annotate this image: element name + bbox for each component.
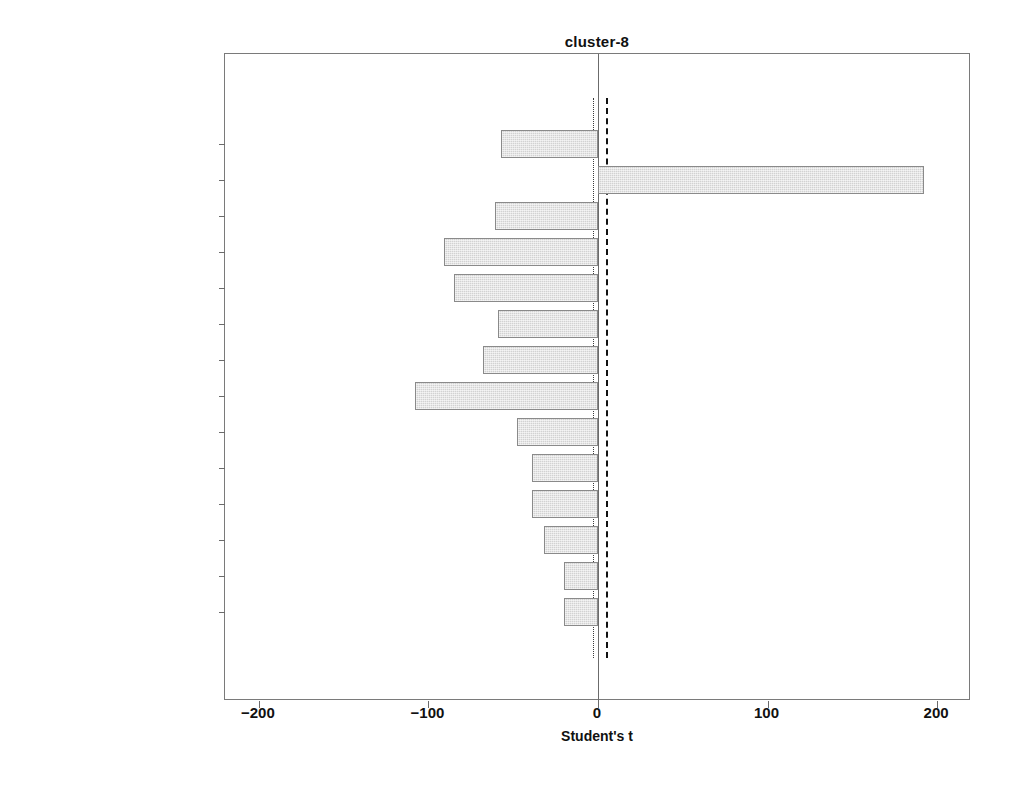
y-axis-tick bbox=[219, 540, 225, 541]
bar bbox=[532, 490, 598, 518]
y-axis-tick bbox=[219, 612, 225, 613]
x-axis-title: Student's t bbox=[224, 728, 970, 744]
y-axis-tick bbox=[219, 576, 225, 577]
bar bbox=[544, 526, 598, 554]
x-axis-tick-label: 200 bbox=[891, 704, 981, 721]
bar bbox=[598, 166, 924, 194]
y-axis-tick bbox=[219, 468, 225, 469]
bar bbox=[498, 310, 598, 338]
bar bbox=[564, 598, 598, 626]
chart-container: cluster-8 PRC ACCESSORIESPRC APPLIANCESP… bbox=[0, 0, 1018, 790]
x-axis-tick-label: 0 bbox=[552, 704, 642, 721]
bar bbox=[415, 382, 598, 410]
bar bbox=[444, 238, 598, 266]
y-axis-tick bbox=[219, 180, 225, 181]
y-axis-tick bbox=[219, 324, 225, 325]
bar bbox=[517, 418, 598, 446]
plot-area bbox=[224, 53, 970, 700]
y-axis-tick bbox=[219, 252, 225, 253]
y-axis-tick bbox=[219, 432, 225, 433]
x-axis-tick-label: 100 bbox=[722, 704, 812, 721]
y-axis-tick bbox=[219, 396, 225, 397]
bar bbox=[454, 274, 598, 302]
bar bbox=[564, 562, 598, 590]
y-axis-tick bbox=[219, 360, 225, 361]
y-axis-tick bbox=[219, 216, 225, 217]
zero-reference-line bbox=[598, 54, 599, 701]
y-axis-tick bbox=[219, 288, 225, 289]
chart-title: cluster-8 bbox=[224, 33, 970, 50]
bar bbox=[532, 454, 598, 482]
bar bbox=[483, 346, 598, 374]
x-axis-tick-label: −100 bbox=[382, 704, 472, 721]
bar bbox=[495, 202, 598, 230]
bar bbox=[501, 130, 598, 158]
y-axis-tick bbox=[219, 144, 225, 145]
y-axis-tick bbox=[219, 504, 225, 505]
x-axis-tick-label: −200 bbox=[213, 704, 303, 721]
